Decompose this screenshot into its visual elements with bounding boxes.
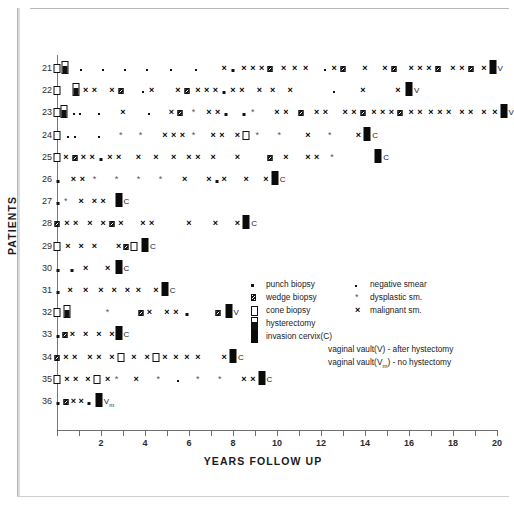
- marker-malignant-sm: ×: [92, 83, 97, 97]
- legend-label: wedge biopsy: [266, 292, 317, 302]
- marker-malignant-sm: ×: [83, 283, 88, 297]
- marker-wedge-biopsy: [268, 66, 273, 72]
- x-tick-7: [211, 430, 212, 436]
- marker-malignant-sm: ×: [360, 83, 365, 97]
- marker-malignant-sm: ×: [222, 350, 227, 364]
- x-tick-0: [57, 430, 58, 436]
- marker-malignant-sm: ×: [211, 128, 216, 142]
- legend-label: punch biopsy: [266, 279, 315, 289]
- marker-malignant-sm: ×: [351, 105, 356, 119]
- row-end-label-30: C: [124, 262, 130, 275]
- row-end-label-36: Vm: [104, 395, 114, 412]
- row-end-label-27: C: [124, 195, 130, 208]
- marker-cone-biopsy: [243, 131, 250, 140]
- marker-malignant-sm: ×: [250, 61, 255, 75]
- marker-hysterectomy: [61, 61, 68, 74]
- marker-malignant-sm: ×: [81, 150, 86, 164]
- row-end-label-25: C: [383, 151, 389, 164]
- marker-dysplastic-sm: *: [192, 105, 196, 119]
- marker-invasion-cervix-c: [95, 393, 102, 407]
- x-tick-label-12: 12: [316, 438, 326, 448]
- row-end-label-26: C: [280, 173, 286, 186]
- marker-cone-biopsy: [54, 242, 61, 251]
- y-tick-label-26: 26: [30, 174, 52, 184]
- y-tick-label-23: 23: [30, 107, 52, 117]
- marker-malignant-sm: ×: [140, 216, 145, 230]
- marker-malignant-sm: ×: [70, 327, 75, 341]
- marker-malignant-sm: ×: [85, 372, 90, 386]
- marker-malignant-sm: ×: [90, 150, 95, 164]
- marker-malignant-sm: ×: [426, 61, 431, 75]
- x-tick-4: [145, 430, 146, 436]
- marker-wedge-biopsy: [299, 110, 304, 116]
- marker-hysterectomy: [60, 105, 67, 118]
- y-tick-label-32: 32: [30, 307, 52, 317]
- marker-malignant-sm: ×: [314, 105, 319, 119]
- marker-malignant-sm: ×: [173, 305, 178, 319]
- marker-malignant-sm: ×: [213, 216, 218, 230]
- marker-wedge-biopsy: [184, 88, 189, 94]
- marker-malignant-sm: ×: [481, 105, 486, 119]
- marker-malignant-sm: ×: [343, 105, 348, 119]
- marker-malignant-sm: ×: [64, 372, 69, 386]
- patient-row-25: ×××××××××××××××*C: [57, 149, 511, 169]
- marker-malignant-sm: ×: [235, 128, 240, 142]
- marker-malignant-sm: ×: [171, 150, 176, 164]
- marker-wedge-biopsy: [55, 221, 60, 227]
- marker-negative-smear: [195, 69, 197, 71]
- legend-item-punch: punch biopsy: [250, 278, 355, 291]
- x-tick-19: [475, 430, 476, 436]
- legend-note-2: vaginal vault(Vm) - no hystectomy: [328, 357, 451, 369]
- marker-malignant-sm: ×: [109, 327, 114, 341]
- marker-malignant-sm: ×: [145, 350, 150, 364]
- marker-wedge-biopsy: [468, 66, 473, 72]
- marker-dysplastic-sm: *: [93, 172, 97, 186]
- marker-punch-biopsy: [57, 335, 60, 338]
- marker-wedge-biopsy: [72, 155, 77, 161]
- marker-malignant-sm: ×: [79, 239, 84, 253]
- marker-malignant-sm: ×: [235, 150, 240, 164]
- marker-malignant-sm: ×: [136, 283, 141, 297]
- legend-label: dysplastic sm.: [370, 292, 422, 302]
- row-end-label-34: C: [238, 351, 244, 364]
- marker-malignant-sm: ×: [109, 83, 114, 97]
- marker-cone-biopsy: [117, 353, 124, 362]
- marker-malignant-sm: ×: [92, 239, 97, 253]
- marker-invasion-cervix-c: [142, 238, 149, 252]
- marker-malignant-sm: ×: [83, 261, 88, 275]
- marker-malignant-sm: ×: [244, 172, 249, 186]
- marker-wedge-biopsy: [63, 399, 68, 405]
- marker-malignant-sm: ×: [288, 83, 293, 97]
- row-end-label-29: C: [150, 240, 156, 253]
- y-tick-label-34: 34: [30, 352, 52, 362]
- marker-negative-smear: [73, 113, 75, 115]
- patient-row-24: **×××*×××**×*×C: [57, 127, 511, 147]
- y-tick-label-25: 25: [30, 152, 52, 162]
- y-axis-title: PATIENTS: [6, 196, 18, 255]
- marker-malignant-sm: ×: [65, 239, 70, 253]
- legend-label: hysterectomy: [266, 318, 315, 328]
- x-tick-18: [453, 430, 454, 436]
- marker-punch-biopsy: [87, 402, 90, 405]
- marker-malignant-sm: ×: [323, 105, 328, 119]
- marker-punch-biopsy: [185, 313, 188, 316]
- marker-invasion-cervix-c: [375, 149, 382, 163]
- marker-wedge-biopsy: [118, 88, 123, 94]
- marker-malignant-sm: ×: [222, 61, 227, 75]
- marker-malignant-sm: ×: [239, 83, 244, 97]
- marker-negative-smear: [98, 113, 100, 115]
- x-tick-label-2: 2: [98, 438, 103, 448]
- marker-malignant-sm: ×: [136, 150, 141, 164]
- marker-wedge-biopsy: [110, 221, 115, 227]
- marker-malignant-sm: ×: [87, 216, 92, 230]
- x-tick-8: [233, 430, 234, 436]
- marker-negative-smear: [148, 113, 150, 115]
- row-end-label-23: V: [509, 106, 514, 119]
- marker-invasion-cervix-c: [364, 127, 371, 141]
- marker-malignant-sm: ×: [303, 61, 308, 75]
- legend-label: invasion cervix(C): [266, 331, 332, 341]
- y-tick-label-30: 30: [30, 263, 52, 273]
- x-tick-label-8: 8: [230, 438, 235, 448]
- row-end-label-28: C: [251, 217, 257, 230]
- marker-malignant-sm: ×: [171, 128, 176, 142]
